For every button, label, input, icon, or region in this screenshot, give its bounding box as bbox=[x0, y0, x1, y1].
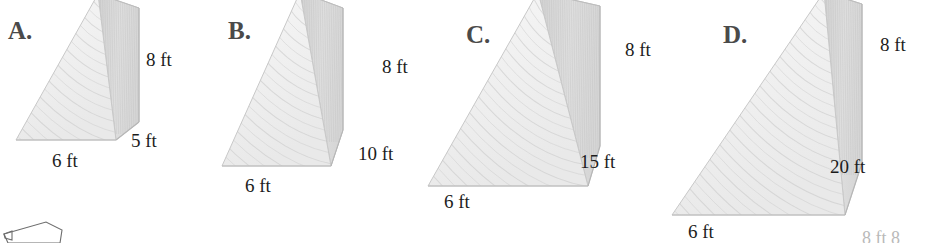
wedge-prism-d bbox=[0, 0, 944, 243]
dimension-label-d-slope: 20 ft bbox=[830, 157, 865, 176]
dimension-label-d-height: 8 ft bbox=[880, 35, 906, 54]
page-scrap-bottom-left bbox=[2, 218, 66, 243]
cropped-bottom-text: 8 ft 8 bbox=[862, 229, 900, 243]
figure-canvas: A. 8 ft 5 ft 6 ft B. 8 ft 10 ft 6 ft C. … bbox=[0, 0, 944, 243]
scrap-outline-icon bbox=[2, 218, 66, 243]
dimension-label-d-base: 6 ft bbox=[688, 222, 714, 241]
choice-letter-d: D. bbox=[723, 22, 747, 47]
